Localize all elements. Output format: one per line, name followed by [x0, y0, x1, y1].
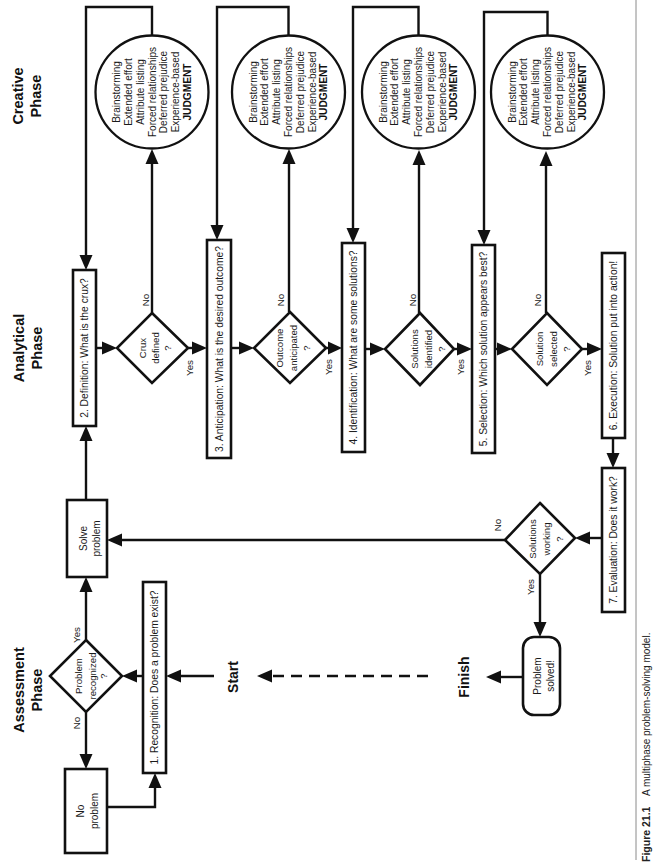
- arrowhead-down-icon: [478, 230, 491, 245]
- arrowhead-down-icon: [534, 622, 547, 637]
- no-problem-box: [65, 769, 107, 853]
- step-4-identification: 4. Identification: What are some solutio…: [342, 243, 365, 452]
- no-label: No: [407, 293, 418, 306]
- step-2-definition: 2. Definition: What is the crux?: [73, 270, 96, 426]
- no-label: No: [492, 518, 503, 531]
- step-label: 5. Selection: Which solution appears bes…: [478, 251, 489, 446]
- technique-deferred-prejudice: Deferred prejudice: [425, 50, 436, 133]
- technique-extended-effort: Extended effort: [389, 58, 400, 126]
- step-label: 2. Definition: What is the crux?: [79, 278, 90, 418]
- no-label: No: [275, 293, 286, 306]
- technique-forced-relationships: Forced relationships: [542, 47, 553, 137]
- decision-text-line: defined: [150, 332, 161, 363]
- decision-text-line: ?: [162, 345, 173, 350]
- arrowhead-up-icon: [283, 149, 296, 164]
- node-text-line: Solve: [78, 526, 89, 551]
- arrowhead-left-icon: [122, 670, 137, 683]
- creative-phase-label: Creative: [10, 67, 26, 124]
- step-6-execution: 6. Execution: Solution put into action!: [602, 253, 625, 438]
- arrowhead-right-icon: [497, 343, 512, 356]
- decision-text-line: identified: [423, 330, 434, 368]
- creative-circle-1: Brainstorming Extended effort Attribute …: [96, 36, 209, 149]
- figure-number: Figure 21.1: [640, 806, 652, 862]
- arrowhead-right-icon: [370, 343, 385, 356]
- no-label: No: [532, 293, 543, 306]
- decision-text-line: Problem: [73, 658, 84, 694]
- technique-deferred-prejudice: Deferred prejudice: [295, 50, 306, 133]
- no-label: No: [140, 293, 151, 306]
- technique-judgment: JUDGMENT: [448, 63, 459, 121]
- step-7-evaluation: 7. Evaluation: Does it work?: [602, 468, 625, 612]
- analytical-phase-label-sub: Phase: [29, 327, 45, 370]
- problem-solved-node: Problem solved!: [523, 637, 560, 715]
- yes-label: Yes: [455, 359, 466, 375]
- arrowhead-right-icon: [328, 342, 342, 355]
- arrowhead-left-icon: [575, 532, 590, 545]
- yes-label: Yes: [184, 360, 195, 376]
- decision-text-line: ?: [301, 345, 312, 350]
- phase-labels: Creative Phase Analytical Phase Assessme…: [10, 67, 45, 732]
- decision-crux-defined: Crux defined ?: [117, 313, 188, 383]
- technique-judgment: JUDGMENT: [182, 63, 193, 121]
- technique-extended-effort: Extended effort: [518, 58, 529, 126]
- decision-text-line: ?: [98, 673, 109, 678]
- decision-outcome-anticipated: Outcome anticipated ?: [254, 312, 326, 383]
- decision-text-line: ?: [561, 346, 572, 351]
- decision-text-line: Outcome: [274, 329, 285, 368]
- technique-extended-effort: Extended effort: [259, 58, 270, 126]
- technique-judgment: JUDGMENT: [577, 63, 588, 121]
- creative-circle-3: Brainstorming Extended effort Attribute …: [362, 36, 475, 149]
- analytical-phase-label: Analytical: [11, 314, 27, 383]
- node-text-line: problem: [89, 793, 100, 829]
- creative-circle-4: Brainstorming Extended effort Attribute …: [491, 36, 604, 149]
- technique-experience-based: Experience-based: [307, 52, 318, 133]
- step-label: 3. Anticipation: What is the desired out…: [214, 246, 225, 452]
- decision-diamonds: Problem recognized ? Crux defined ? Outc…: [50, 312, 582, 712]
- no-problem-node: No problem: [65, 769, 107, 853]
- solve-problem-node: Solve problem: [67, 500, 107, 577]
- technique-attribute-listing: Attribute listing: [135, 59, 146, 125]
- figure-caption-text: A multiphase problem-solving model.: [641, 633, 652, 796]
- arrowhead-down-icon: [211, 225, 224, 240]
- arrowhead-left-icon: [166, 670, 181, 683]
- step-label: 4. Identification: What are some solutio…: [348, 250, 359, 444]
- technique-experience-based: Experience-based: [566, 52, 577, 133]
- finish-label: Finish: [456, 656, 472, 697]
- step-1-recognition: 1. Recognition: Does a problem exist?: [143, 582, 166, 773]
- technique-forced-relationships: Forced relationships: [283, 47, 294, 137]
- yes-label: Yes: [71, 627, 82, 643]
- technique-brainstorming: Brainstorming: [378, 61, 389, 123]
- arrowhead-down-icon: [80, 754, 93, 769]
- technique-attribute-listing: Attribute listing: [271, 59, 282, 125]
- node-text-line: solved!: [545, 660, 556, 692]
- decision-text-line: anticipated: [288, 325, 299, 371]
- arrowhead-up-icon: [413, 150, 426, 165]
- creative-phase-label-sub: Phase: [28, 75, 44, 118]
- arrowhead-left-icon: [486, 671, 501, 684]
- no-label: No: [71, 716, 82, 729]
- yes-label: Yes: [582, 360, 593, 376]
- assessment-phase-label: Assessment: [11, 647, 27, 733]
- arrowhead-right-icon: [457, 343, 472, 356]
- decision-text-line: Solution: [534, 332, 545, 367]
- decision-text-line: Solutions: [527, 519, 538, 559]
- technique-deferred-prejudice: Deferred prejudice: [554, 50, 565, 133]
- technique-brainstorming: Brainstorming: [248, 61, 259, 123]
- arrowhead-up-icon: [80, 426, 93, 441]
- decision-solutions-identified: Solutions identified ?: [385, 313, 454, 385]
- connector-line: [107, 787, 155, 807]
- decision-text-line: selected: [548, 331, 559, 367]
- technique-attribute-listing: Attribute listing: [401, 59, 412, 125]
- decision-solutions-working: Solutions working ?: [505, 503, 575, 574]
- decision-text-line: ?: [554, 536, 565, 541]
- arrowhead-up-icon: [149, 773, 162, 788]
- arrowhead-right-icon: [192, 342, 207, 355]
- arrowhead-down-icon: [80, 255, 93, 270]
- decision-text-line: working: [541, 522, 552, 556]
- decision-text-line: Solutions: [409, 329, 420, 369]
- technique-attribute-listing: Attribute listing: [530, 59, 541, 125]
- figure-caption: Figure 21.1 A multiphase problem-solving…: [640, 633, 652, 862]
- node-text-line: Problem: [532, 657, 543, 694]
- technique-extended-effort: Extended effort: [123, 58, 134, 126]
- arrowhead-left-icon: [107, 534, 122, 547]
